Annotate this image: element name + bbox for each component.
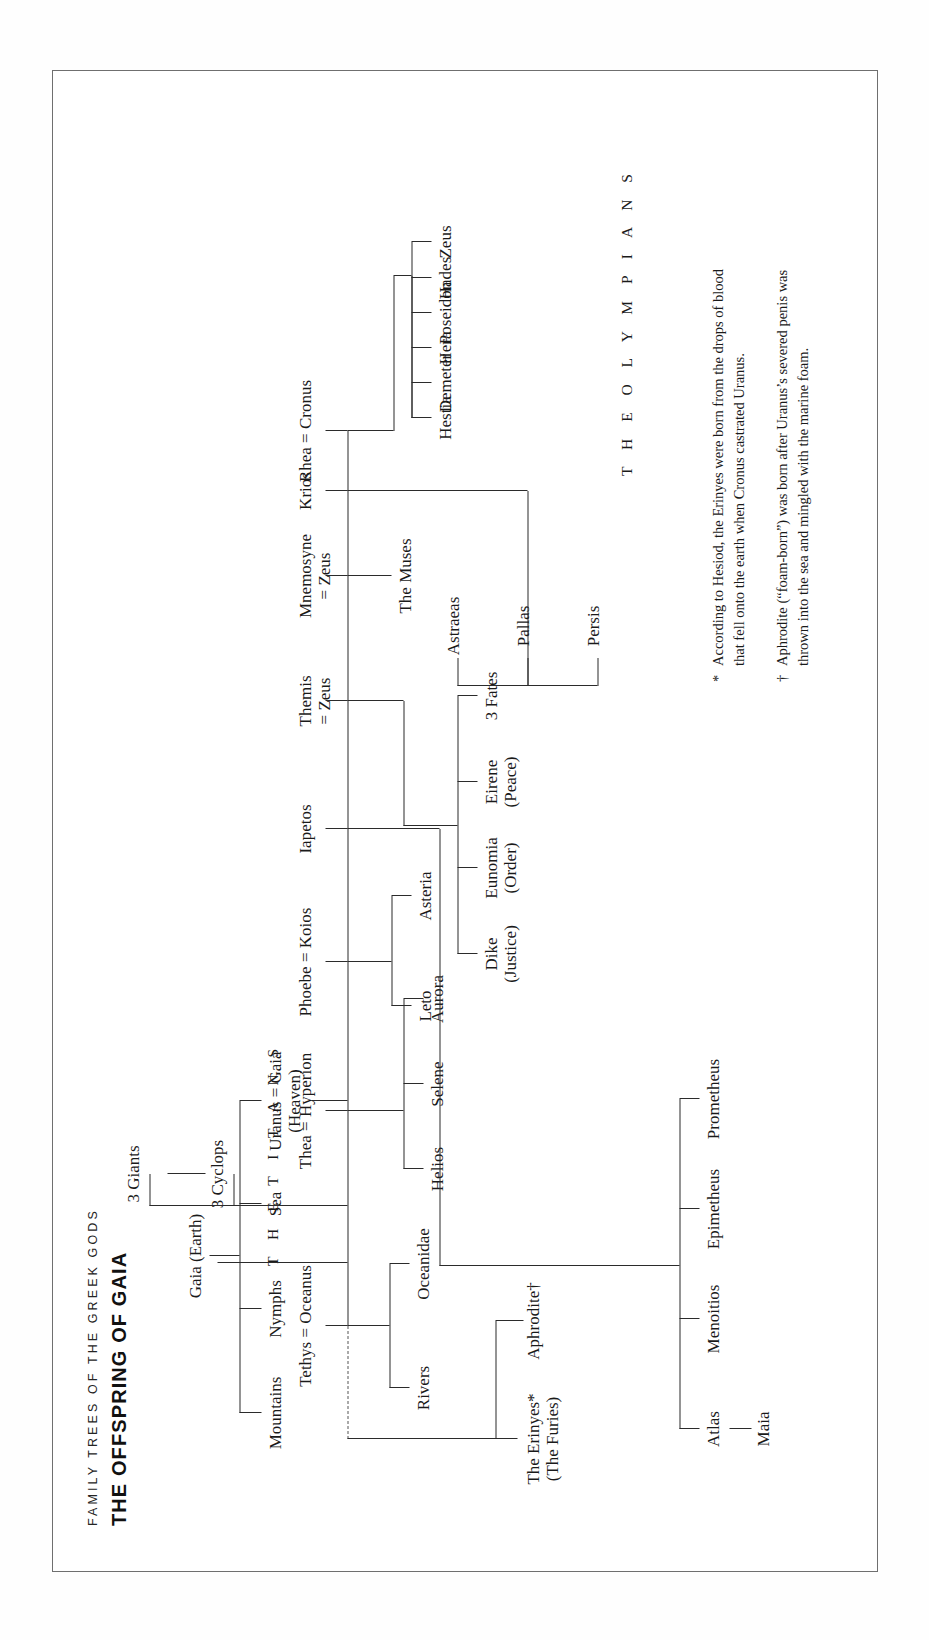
rotated-chart-wrapper: FAMILY TREES OF THE GREEK GODS THE OFFSP… [58, 76, 873, 1566]
footnote-2: † Aphrodite (“foam-born”) was born after… [772, 246, 813, 666]
edge-olympians-drop [394, 275, 412, 276]
node-tethys-oceanus: Tethys = Oceanus [296, 1265, 315, 1387]
edge-to-hades [412, 277, 432, 278]
edge-spine-to-krios [326, 490, 348, 491]
edge-rhea-stem [348, 430, 394, 431]
edge-thea-to-helios [404, 1168, 424, 1169]
edge-erinyes-drop [348, 1438, 518, 1439]
edge-cg-riser [150, 1205, 348, 1206]
edge-to-astraeas [458, 658, 459, 686]
node-erinyes-label: The Erinyes* [524, 1393, 543, 1484]
edge-giants-connector [150, 1174, 151, 1206]
edge-to-epimetheus [680, 1208, 700, 1209]
edge-atlas-to-maia [730, 1428, 752, 1429]
edge-to-fates [458, 695, 478, 696]
node-thea-hyperion: Thea = Hyperion [296, 1053, 315, 1169]
poster-kicker-title: FAMILY TREES OF THE GREEK GODS [86, 1208, 100, 1526]
node-erinyes-sublabel: (The Furies) [543, 1393, 562, 1484]
edge-tethys-bar [390, 1264, 391, 1388]
footnote-2-text: Aphrodite (“foam-born”) was born after U… [772, 246, 813, 666]
edge-gaia-stem [210, 1255, 240, 1256]
node-leto: Leto [416, 990, 435, 1021]
node-zeus: Zeus [436, 225, 455, 258]
node-phoebe-koios: Phoebe = Koios [296, 908, 315, 1017]
edge-phoebe-to-asteria [392, 895, 412, 896]
node-themis-label: Themis [296, 676, 315, 727]
edge-spine-to-thea [326, 1110, 348, 1111]
node-astraeas: Astraeas [444, 597, 463, 656]
edge-spine-to-iapetos [326, 828, 348, 829]
node-maia: Maia [754, 1412, 773, 1447]
edge-to-zeus [412, 241, 432, 242]
footnote-1: * According to Hesiod, the Erinyes were … [708, 246, 749, 666]
node-mountains: Mountains [266, 1377, 285, 1450]
edge-iapetos-stem [348, 828, 440, 829]
edge-gaia-bar [240, 1101, 241, 1413]
edge-aphrodite-stem [496, 1320, 524, 1321]
edge-iapetos-run [440, 829, 441, 1266]
edge-krios-drop [348, 490, 528, 491]
edge-tethys-to-rivers [390, 1387, 410, 1388]
footnote-2-marker: † [772, 675, 793, 682]
edge-uranus-main-spine [348, 431, 349, 1326]
edge-thea-to-selene [404, 1083, 424, 1084]
node-themis-consort: = Zeus [315, 676, 334, 727]
edge-phoebe-to-leto [392, 1005, 412, 1006]
node-3-cyclops: 3 Cyclops [208, 1140, 227, 1208]
edge-themis-run [404, 701, 405, 826]
node-3-fates: 3 Fates [482, 672, 501, 721]
node-mnemosyne-consort: = Zeus [315, 534, 334, 618]
edge-gaia-to-mountains [240, 1412, 262, 1413]
edge-krios-run [528, 491, 529, 686]
edge-thea-bar [404, 999, 405, 1169]
edge-to-hera [412, 347, 432, 348]
family-tree-canvas: FAMILY TREES OF THE GREEK GODS THE OFFSP… [58, 76, 873, 1566]
node-uranus-gaia-label: Uranus = Gaia [266, 1051, 285, 1150]
edge-mnemosyne-stem [348, 575, 392, 576]
node-eunomia-label: Eunomia [482, 837, 501, 898]
node-selene: Selene [428, 1061, 447, 1106]
node-atlas: Atlas [704, 1411, 723, 1447]
poster-main-title: THE OFFSPRING OF GAIA [108, 1252, 131, 1526]
edge-gaia-to-uranus [240, 1100, 262, 1101]
edge-themis-stem [348, 700, 404, 701]
edge-to-eunomia [458, 867, 478, 868]
edge-phoebe-bar [392, 896, 393, 1006]
edge-spine-to-rhea [326, 430, 348, 431]
edge-tethys-to-oceanidae [390, 1263, 410, 1264]
node-themis-zeus: Themis = Zeus [296, 676, 335, 727]
node-asteria: Asteria [416, 871, 435, 920]
edge-gaia-to-sea [240, 1203, 262, 1204]
node-the-muses: The Muses [396, 538, 415, 613]
edge-to-atlas [680, 1428, 700, 1429]
node-3-giants: 3 Giants [124, 1145, 143, 1202]
edge-cyclops-stem [168, 1173, 206, 1174]
node-epimetheus: Epimetheus [704, 1169, 723, 1249]
node-prometheus: Prometheus [704, 1059, 723, 1139]
node-iapetos: Iapetos [296, 804, 315, 853]
node-gaia: Gaia (Earth) [186, 1214, 205, 1298]
edge-thea-stem [348, 1110, 404, 1111]
node-sea: Sea [266, 1192, 285, 1217]
edge-gaia-to-nymphs [240, 1308, 262, 1309]
footnote-1-marker: * [708, 675, 729, 682]
node-eunomia-sublabel: (Order) [501, 837, 520, 898]
edge-spine-to-phoebe [326, 961, 348, 962]
edge-to-demeter [412, 382, 432, 383]
edge-erinyes-aphrodite-bar [496, 1321, 497, 1439]
edge-to-poseidon [412, 312, 432, 313]
edge-uranus-stem [312, 1100, 348, 1101]
node-eunomia: Eunomia (Order) [482, 837, 521, 898]
edge-to-pallas [528, 658, 529, 686]
node-rivers: Rivers [414, 1366, 433, 1410]
node-dike-label: Dike [482, 937, 501, 970]
node-eirene-sublabel: (Peace) [501, 757, 520, 808]
banner-olympians: T H E O L Y M P I A N S [618, 168, 636, 476]
edge-to-persis [598, 658, 599, 686]
edge-to-hestia [412, 417, 432, 418]
node-oceanidae: Oceanidae [414, 1228, 433, 1300]
node-menoitios: Menoitios [704, 1285, 723, 1354]
edge-iapetos-children-bar [680, 1099, 681, 1429]
edge-spine-to-cyclops-giants [218, 1262, 348, 1263]
edge-tethys-stem [348, 1325, 390, 1326]
